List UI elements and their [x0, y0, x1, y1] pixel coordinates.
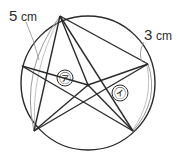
geometry-figure: 5 cm 3 cm ㋐ ㋑	[0, 0, 191, 161]
label-5cm-value: 5	[9, 7, 17, 24]
hub-point	[86, 83, 89, 86]
label-3cm-unit: cm	[156, 29, 172, 43]
arc-3cm	[133, 64, 152, 131]
hub-radius-to-bottomleft	[34, 85, 88, 131]
label-5cm-unit: cm	[21, 10, 37, 24]
label-3cm-value: 3	[144, 26, 152, 43]
region-i-glyph: ㋑	[114, 87, 126, 101]
figure-canvas: 5 cm 3 cm ㋐ ㋑	[0, 0, 191, 161]
star-chord-top-to-right	[60, 16, 148, 64]
region-a-glyph: ㋐	[59, 72, 71, 86]
main-circle	[21, 16, 155, 150]
